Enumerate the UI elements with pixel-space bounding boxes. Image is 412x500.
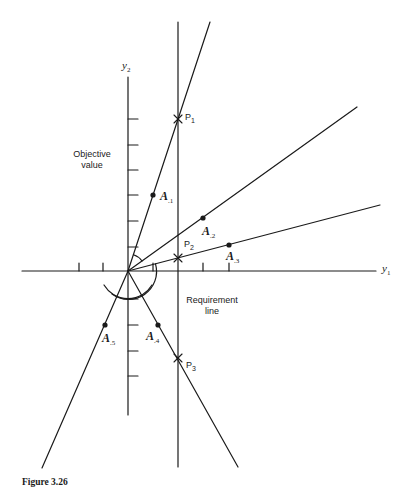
y1-axis-label: y1 xyxy=(382,263,390,274)
y2-axis-label: y2 xyxy=(122,60,130,71)
figure-caption: Figure 3.26 xyxy=(22,478,68,488)
ray-a3 xyxy=(128,205,380,271)
point-p1-label: P1 xyxy=(185,113,195,122)
vector-a2-label: A.2 xyxy=(202,225,215,237)
point-p3-label: P3 xyxy=(186,361,196,370)
vector-a3-label: A.3 xyxy=(226,250,239,262)
vector-a1-label: A.1 xyxy=(160,190,173,202)
y2-axis-ticks xyxy=(128,119,138,376)
vector-a5-label: A.5 xyxy=(102,332,115,344)
vector-a4-label: A.4 xyxy=(146,330,159,342)
figure-3-26: y2 y1 Objective value Requirement line P… xyxy=(0,0,412,500)
diagram-canvas xyxy=(0,0,412,500)
point-p2-label: P2 xyxy=(184,240,194,249)
objective-value-label: Objective value xyxy=(68,150,116,170)
ray-a1 xyxy=(128,22,210,271)
ray-a5 xyxy=(42,271,128,468)
angle-arc-small xyxy=(134,255,143,261)
requirement-line-label: Requirement line xyxy=(183,296,241,316)
